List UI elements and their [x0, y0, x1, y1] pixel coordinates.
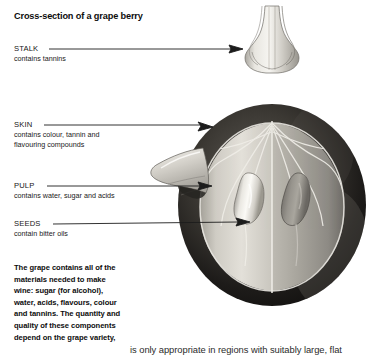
callout-skin: SKIN contains colour, tannin and flavour… — [14, 120, 100, 150]
callout-seeds: SEEDS contain bitter oils — [14, 219, 68, 239]
summary-line-6: quality of these components — [14, 320, 154, 332]
grape-berry-figure: Cross-section of a grape berry STALK con… — [0, 0, 382, 360]
callout-pulp: PULP contains water, sugar and acids — [14, 181, 115, 201]
summary-line-7: depend on the grape variety, — [14, 332, 154, 344]
stalk-shape — [245, 6, 299, 73]
callout-stalk: STALK contains tannins — [14, 44, 66, 64]
callout-seeds-term: SEEDS — [14, 219, 68, 229]
summary-line-2: materials needed to make — [14, 274, 154, 286]
callout-stalk-term: STALK — [14, 44, 66, 54]
figure-summary-paragraph: The grape contains all of the materials … — [14, 262, 154, 343]
callout-stalk-description: contains tannins — [14, 54, 66, 64]
callout-seeds-description: contain bitter oils — [14, 229, 68, 239]
figure-title: Cross-section of a grape berry — [14, 11, 143, 21]
arrowhead-stalk — [229, 45, 243, 53]
page-body-clipped-line: is only appropriate in regions with suit… — [130, 344, 342, 356]
summary-line-3: wine: sugar (for alcohol), — [14, 285, 154, 297]
callout-pulp-description: contains water, sugar and acids — [14, 191, 115, 201]
callout-pulp-term: PULP — [14, 181, 115, 191]
pulp-shape — [200, 121, 344, 293]
summary-line-4: water, acids, flavours, colour — [14, 297, 154, 309]
callout-skin-description-line-2: flavouring compounds — [14, 140, 100, 150]
summary-line-1: The grape contains all of the — [14, 262, 154, 274]
callout-skin-description-line-1: contains colour, tannin and — [14, 130, 100, 140]
summary-line-5: and tannins. The quantity and — [14, 308, 154, 320]
callout-skin-term: SKIN — [14, 120, 100, 130]
